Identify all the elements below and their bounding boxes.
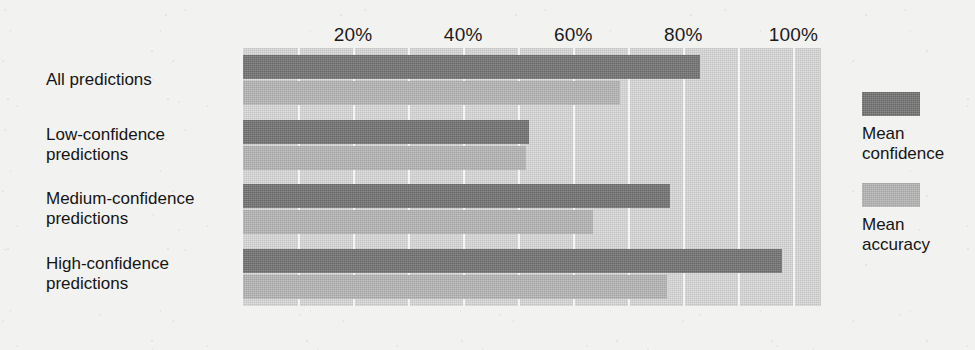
x-tick-60: 60%	[554, 24, 593, 46]
category-label-0: All predictions	[46, 70, 236, 90]
legend-label-mean-confidence: Mean confidence	[862, 124, 944, 164]
x-tick-20: 20%	[334, 24, 373, 46]
x-tick-40: 40%	[444, 24, 483, 46]
legend-swatch-mean-accuracy	[862, 183, 920, 207]
category-label-3: High-confidence predictions	[46, 254, 236, 294]
category-label-2: Medium-confidence predictions	[46, 189, 236, 229]
x-tick-80: 80%	[664, 24, 703, 46]
gridline-100	[793, 48, 795, 306]
legend-label-mean-accuracy: Mean accuracy	[862, 215, 944, 255]
bar-group-1-series-0	[243, 120, 529, 144]
bar-group-0-series-0	[243, 55, 700, 79]
legend-swatch-mean-confidence	[862, 92, 920, 116]
plot-area	[243, 48, 821, 306]
grouped-bar-chart: 20%40%60%80%100% All predictionsLow-conf…	[0, 0, 975, 350]
legend-entry-mean-accuracy: Mean accuracy	[862, 183, 944, 255]
bar-group-2-series-1	[243, 210, 593, 234]
bar-group-3-series-0	[243, 249, 782, 273]
bar-group-2-series-0	[243, 184, 670, 208]
bar-group-0-series-1	[243, 81, 620, 105]
bar-group-3-series-1	[243, 275, 667, 299]
legend-entry-mean-confidence: Mean confidence	[862, 92, 944, 164]
category-label-1: Low-confidence predictions	[46, 125, 236, 165]
legend: Mean confidence Mean accuracy	[862, 92, 944, 274]
bar-group-1-series-1	[243, 146, 526, 170]
x-tick-100: 100%	[769, 24, 818, 46]
